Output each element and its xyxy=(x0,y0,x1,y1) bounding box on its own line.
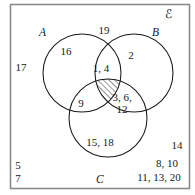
region-b-only-value: 2 xyxy=(128,50,134,62)
universal-set-label: ℰ xyxy=(165,9,172,21)
set-b-label: B xyxy=(152,27,159,39)
set-a-label: A xyxy=(39,27,46,39)
region-outside-bottom-left-value-2: 7 xyxy=(15,173,21,185)
region-b-and-c-value: 3, 6, 12 xyxy=(112,92,131,115)
region-outside-bottom-right-value-2: 11, 13, 20 xyxy=(137,172,181,184)
region-outside-top-value: 19 xyxy=(99,25,110,37)
region-a-and-b-value: 1, 4 xyxy=(93,63,110,75)
set-c-label: C xyxy=(96,174,104,186)
region-a-only-value: 16 xyxy=(61,46,72,58)
region-outside-bottom-left-value-1: 5 xyxy=(15,160,21,172)
region-outside-bottom-right-value-1: 8, 10 xyxy=(156,158,178,170)
venn-diagram-figure: ℰ A B C 16 2 15, 18 1, 4 9 3, 6, 12 19 1… xyxy=(0,0,195,195)
region-a-and-c-value: 9 xyxy=(78,98,84,110)
region-outside-left-value: 17 xyxy=(16,62,27,74)
region-outside-right-value: 14 xyxy=(172,140,183,152)
region-c-only-value: 15, 18 xyxy=(86,137,114,149)
